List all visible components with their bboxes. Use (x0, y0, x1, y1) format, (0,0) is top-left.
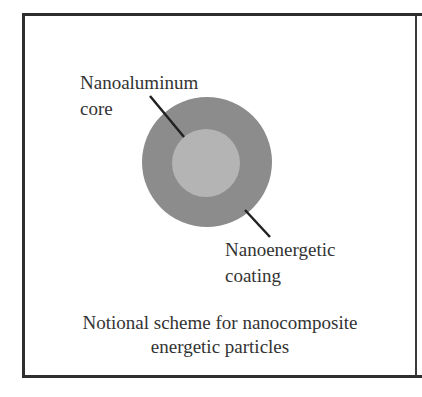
core-label-line-1: Nanoaluminum (80, 70, 198, 96)
core-label: Nanoaluminum core (80, 70, 198, 122)
figure-caption: Notional scheme for nanocomposite energe… (25, 311, 415, 359)
coating-label-line-1: Nanoenergetic (225, 237, 335, 263)
core-label-line-2: core (80, 96, 198, 122)
caption-line-1: Notional scheme for nanocomposite (25, 311, 415, 335)
nanoaluminum-core (172, 129, 240, 197)
caption-line-2: energetic particles (25, 335, 415, 359)
coating-label: Nanoenergetic coating (225, 237, 335, 289)
coating-leader-line (245, 210, 270, 237)
coating-label-line-2: coating (225, 263, 335, 289)
